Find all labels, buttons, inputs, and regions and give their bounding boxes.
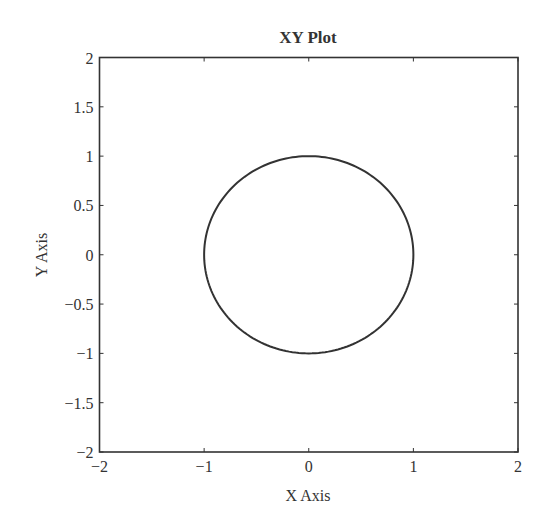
chart-title: XY Plot — [279, 28, 337, 47]
y-tick-label: −2 — [76, 444, 93, 461]
circle-series-line — [204, 156, 413, 353]
x-tick-label: 2 — [514, 458, 522, 475]
y-tick-label: −1 — [76, 345, 93, 362]
y-axis-label: Y Axis — [33, 233, 50, 277]
y-tick-label: 0.5 — [74, 197, 94, 214]
y-tick-label: 1.5 — [74, 99, 94, 116]
x-tick-label: −2 — [91, 458, 108, 475]
y-tick-label: 0 — [86, 247, 94, 264]
plot-area-frame — [100, 58, 519, 453]
x-tick-label: −1 — [196, 458, 213, 475]
y-tick-label: 2 — [86, 50, 94, 67]
x-axis-label: X Axis — [286, 487, 331, 504]
x-tick-label: 0 — [305, 458, 313, 475]
xy-plot-chart: XY Plot −2−1012−2−1.5−1−0.500.511.52 X A… — [0, 0, 545, 527]
x-tick-label: 1 — [409, 458, 417, 475]
axis-ticks — [100, 58, 519, 453]
y-tick-label: −0.5 — [64, 296, 93, 313]
y-tick-label: 1 — [86, 148, 94, 165]
tick-labels: −2−1012−2−1.5−1−0.500.511.52 — [64, 50, 522, 476]
y-tick-label: −1.5 — [64, 395, 93, 412]
